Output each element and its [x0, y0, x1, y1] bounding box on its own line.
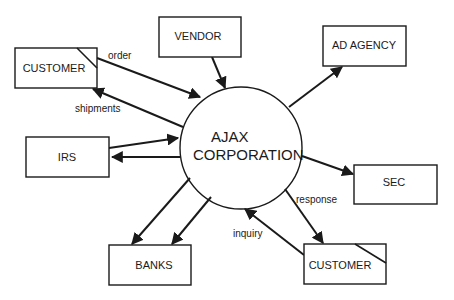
entity-label-customer-bottom: CUSTOMER	[309, 259, 372, 271]
process-label-line2: CORPORATION	[193, 146, 304, 163]
flow-order-arrow	[97, 58, 200, 97]
entity-customer-top: CUSTOMER	[15, 48, 97, 88]
entity-irs: IRS	[26, 137, 109, 177]
flow-label-response: response	[296, 194, 338, 205]
flow-label-shipments: shipments	[75, 103, 121, 114]
flow-banks-arrow-2	[172, 197, 211, 244]
flow-sec-arrow	[302, 156, 353, 174]
flow-vendor-arrow	[212, 57, 225, 88]
entity-label-customer-top: CUSTOMER	[23, 62, 86, 74]
entity-label-vendor: VENDOR	[174, 30, 221, 42]
flow-irs-in-arrow	[109, 138, 178, 148]
entity-ad-agency: AD AGENCY	[323, 26, 406, 66]
entity-banks: BANKS	[109, 245, 191, 285]
flow-ad-agency-arrow	[289, 67, 342, 107]
flow-label-order: order	[108, 50, 132, 61]
entity-customer-bottom: CUSTOMER	[304, 244, 386, 284]
entity-sec: SEC	[354, 165, 437, 204]
entity-label-irs: IRS	[58, 151, 76, 163]
entity-vendor: VENDOR	[159, 17, 241, 57]
flow-label-inquiry: inquiry	[233, 228, 262, 239]
entity-label-ad-agency: AD AGENCY	[332, 39, 397, 51]
context-diagram: AJAX CORPORATION order shipments respons…	[0, 0, 454, 300]
entity-label-banks: BANKS	[135, 259, 172, 271]
entity-label-sec: SEC	[383, 176, 406, 188]
process-label-line1: AJAX	[211, 128, 249, 145]
